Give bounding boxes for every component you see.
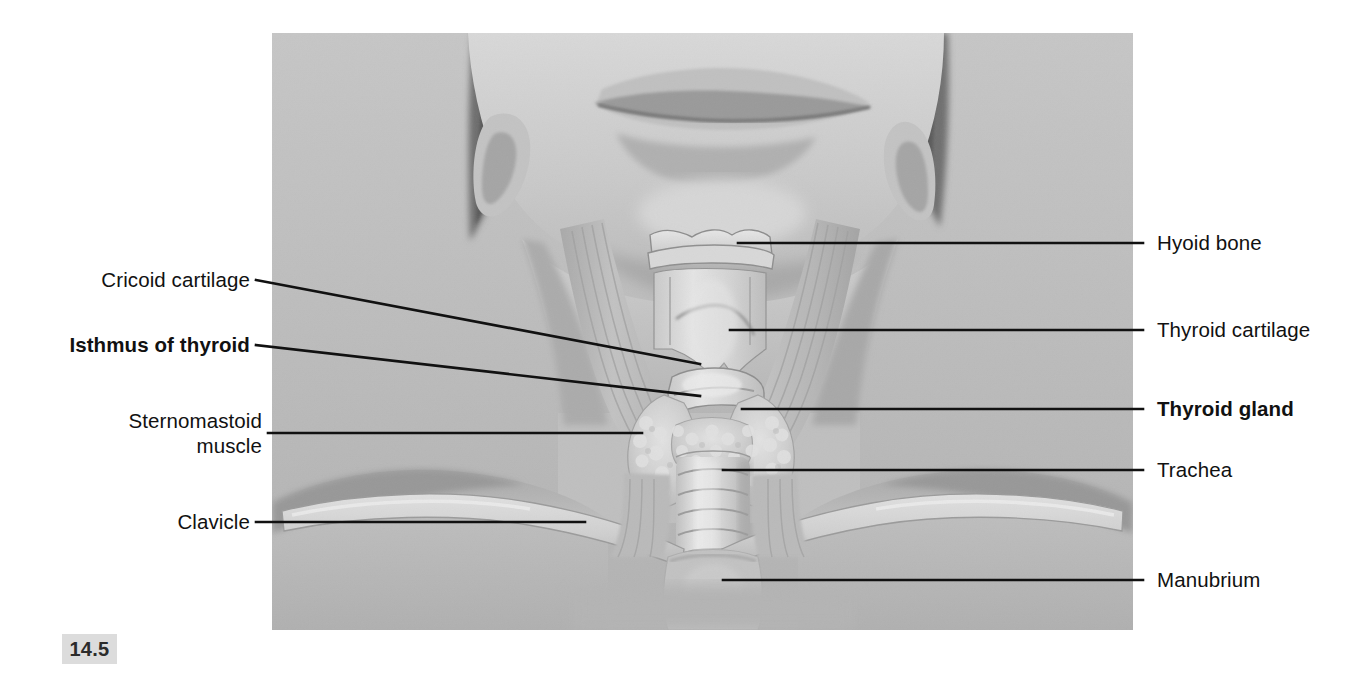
label-thyroid-cartilage: Thyroid cartilage	[1157, 317, 1362, 342]
label-hyoid-bone: Hyoid bone	[1157, 230, 1362, 255]
label-sternomastoid-muscle: Sternomastoid muscle	[0, 408, 262, 458]
neck-photograph	[272, 33, 1133, 630]
label-thyroid-gland: Thyroid gland	[1157, 396, 1362, 421]
anatomy-figure: Cricoid cartilage Isthmus of thyroid Ste…	[0, 0, 1362, 679]
label-manubrium: Manubrium	[1157, 567, 1362, 592]
label-trachea: Trachea	[1157, 457, 1362, 482]
label-cricoid-cartilage: Cricoid cartilage	[0, 267, 250, 292]
label-clavicle: Clavicle	[0, 509, 250, 534]
neck-photograph-artwork	[272, 33, 1133, 630]
label-isthmus-of-thyroid: Isthmus of thyroid	[0, 332, 250, 357]
figure-number-badge: 14.5	[62, 634, 117, 664]
